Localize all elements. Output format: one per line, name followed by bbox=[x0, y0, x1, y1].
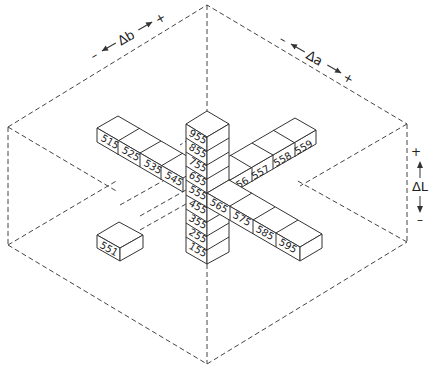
diagram-canvas: 515 525 535 545 556 557 558 559 bbox=[0, 0, 430, 370]
a-axis-label: Δa bbox=[303, 47, 325, 68]
b-axis-minus: – bbox=[88, 48, 100, 63]
a-axis-plus: + bbox=[341, 70, 357, 87]
isolated-block: 551 bbox=[97, 222, 143, 261]
arrow-left-icon bbox=[100, 45, 108, 53]
arrow-left-icon bbox=[289, 41, 297, 49]
b-axis-indicator: – Δb + bbox=[88, 9, 168, 64]
a-axis-indicator: – Δa + bbox=[277, 32, 357, 87]
isometric-diagram: 515 525 535 545 556 557 558 559 bbox=[0, 0, 430, 370]
arrow-up-icon bbox=[417, 161, 423, 168]
L-axis-indicator: + ΔL – bbox=[411, 145, 429, 227]
L-axis-plus: + bbox=[411, 145, 421, 159]
b-axis-plus: + bbox=[153, 10, 169, 27]
arrow-right-icon bbox=[145, 19, 153, 27]
L-axis-minus: – bbox=[417, 213, 423, 227]
b-axis-label: Δb bbox=[115, 27, 137, 49]
a-axis-minus: – bbox=[277, 32, 289, 47]
arrow-right-icon bbox=[334, 67, 342, 75]
arrow-down-icon bbox=[417, 206, 423, 213]
L-axis-label: ΔL bbox=[412, 179, 429, 194]
